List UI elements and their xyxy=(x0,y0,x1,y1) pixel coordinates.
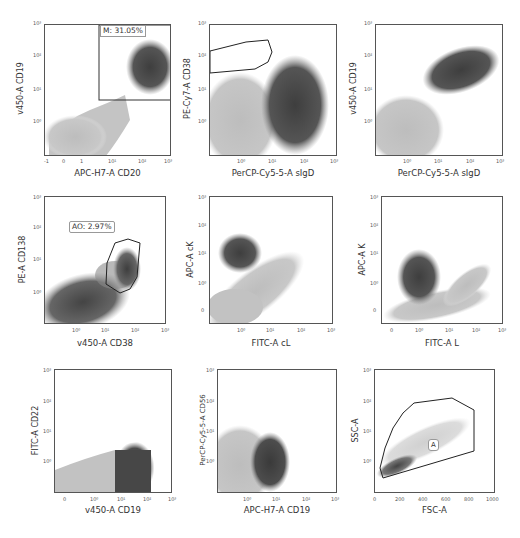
x-tick: 10² xyxy=(143,496,151,502)
plot-area xyxy=(209,196,333,324)
y-tick: 10¹ xyxy=(198,250,206,256)
y-axis-label: PE-Cy7-A CD38 xyxy=(183,49,192,129)
x-tick: 10¹ xyxy=(117,496,125,502)
scatter-points xyxy=(375,370,495,493)
x-axis-label: FITC-A cL xyxy=(209,338,333,348)
y-tick: 10⁰ xyxy=(363,458,371,464)
plot-area xyxy=(381,196,503,324)
y-tick: 10³ xyxy=(363,367,371,373)
x-tick: 10³ xyxy=(161,327,169,333)
y-axis-label: v450-A CD19 xyxy=(349,49,358,129)
x-axis-label: FITC-A L xyxy=(381,338,503,348)
y-tick: 10⁰ xyxy=(33,289,41,295)
x-axis-label: APC-H7-A CD19 xyxy=(217,505,337,515)
x-tick: 10³ xyxy=(327,327,335,333)
y-tick: 10³ xyxy=(370,194,378,200)
x-tick: 10¹ xyxy=(108,158,116,164)
plot-area: A xyxy=(374,369,495,493)
y-axis-label: FITC-A CD22 xyxy=(31,391,40,471)
scatter-points xyxy=(218,370,337,493)
plot-area: M: 31.05% xyxy=(44,24,171,156)
x-tick: 600 xyxy=(441,496,451,502)
x-axis-label: v450-A CD19 xyxy=(54,505,172,515)
x-tick: 400 xyxy=(418,496,428,502)
scatter-points xyxy=(210,197,333,324)
y-axis-label: APC-A K xyxy=(358,220,367,300)
x-axis-label: FSC-A xyxy=(374,505,495,515)
gate-label-a: A xyxy=(428,439,439,451)
scatter-points xyxy=(45,197,166,324)
y-tick: 10⁰ xyxy=(370,280,378,286)
x-tick: 10¹ xyxy=(268,158,276,164)
x-tick: 0 xyxy=(62,158,65,164)
scatter-points xyxy=(210,25,337,156)
y-tick: 10⁰ xyxy=(43,458,51,464)
y-axis-label: v450-A CD19 xyxy=(16,49,25,129)
x-tick: 10⁰ xyxy=(403,158,411,164)
y-tick: 10¹ xyxy=(363,428,371,434)
x-tick: 10³ xyxy=(330,158,338,164)
x-axis-label: APC-H7-A CD20 xyxy=(44,168,171,178)
x-tick: 10³ xyxy=(496,158,504,164)
x-tick: 0 xyxy=(373,496,376,502)
x-tick: 10³ xyxy=(331,496,339,502)
y-tick: 10³ xyxy=(206,367,214,373)
x-tick: 1 xyxy=(80,158,83,164)
y-tick: 10³ xyxy=(33,20,41,26)
scatter-points xyxy=(382,197,503,324)
y-tick: 10³ xyxy=(364,20,372,26)
x-tick: 10⁰ xyxy=(243,496,251,502)
x-tick: 10⁰ xyxy=(90,496,98,502)
gate-label-ao: AO: 2.97% xyxy=(69,221,115,233)
x-tick: 10² xyxy=(472,327,480,333)
x-tick: 10² xyxy=(466,158,474,164)
y-tick: 10⁰ xyxy=(33,118,41,124)
y-tick: 10¹ xyxy=(33,86,41,92)
plot-area xyxy=(209,24,337,156)
y-tick: 10⁰ xyxy=(206,458,214,464)
x-tick: 10¹ xyxy=(266,327,274,333)
x-tick: 10² xyxy=(302,496,310,502)
y-tick: 10² xyxy=(364,52,372,58)
x-tick: 10² xyxy=(297,327,305,333)
y-tick: 10³ xyxy=(198,20,206,26)
y-axis-label: PE-A CD138 xyxy=(18,220,27,300)
y-tick: 10¹ xyxy=(364,86,372,92)
y-tick: 10² xyxy=(363,398,371,404)
y-tick: 10¹ xyxy=(370,250,378,256)
x-tick: 0 xyxy=(63,496,66,502)
plot-area xyxy=(54,369,172,493)
plot-area: AO: 2.97% xyxy=(44,196,166,324)
x-tick: 10³ xyxy=(168,496,176,502)
y-tick: 10¹ xyxy=(33,256,41,262)
x-axis-label: v450-A CD38 xyxy=(44,338,166,348)
scatter-points xyxy=(376,25,503,156)
gate-label-m: M: 31.05% xyxy=(100,25,146,37)
x-tick: 10³ xyxy=(164,158,172,164)
x-axis-label: PerCP-Cy5-5-A sIgD xyxy=(209,168,337,178)
x-tick: 1000 xyxy=(486,496,499,502)
x-tick: 0 xyxy=(390,327,393,333)
x-tick: 10³ xyxy=(498,327,506,333)
y-tick: 10² xyxy=(206,398,214,404)
y-tick: 10² xyxy=(198,222,206,228)
y-tick: 0 xyxy=(201,307,204,313)
y-tick: 10² xyxy=(33,52,41,58)
y-tick: 10² xyxy=(43,398,51,404)
x-tick: 800 xyxy=(464,496,474,502)
x-tick: 10² xyxy=(138,158,146,164)
x-axis-label: PerCP-Cy5-5-A sIgD xyxy=(375,168,503,178)
y-tick: 10⁰ xyxy=(364,118,372,124)
y-axis-label: SSC-A xyxy=(351,391,360,471)
y-tick: 0 xyxy=(373,307,376,313)
y-tick: 10¹ xyxy=(43,428,51,434)
scatter-points xyxy=(55,370,172,493)
x-tick: -1 xyxy=(44,158,49,164)
x-tick: 10¹ xyxy=(101,327,109,333)
y-tick: 10⁰ xyxy=(198,280,206,286)
y-tick: 10³ xyxy=(198,194,206,200)
x-tick: 200 xyxy=(395,496,405,502)
plot-area xyxy=(217,369,337,493)
y-tick: 10¹ xyxy=(198,86,206,92)
x-tick: 10⁰ xyxy=(237,158,245,164)
